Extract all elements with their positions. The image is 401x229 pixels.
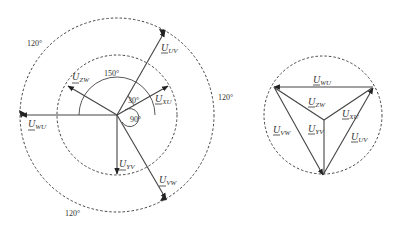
label-u-xu: UXU [155, 93, 173, 106]
svg-text:UVW: UVW [159, 174, 178, 187]
label-r-u-zw: UZW [308, 96, 326, 109]
label-r-u-uv: UUV [351, 131, 368, 144]
angle-label-120-top-left: 120° [27, 39, 42, 48]
svg-text:UWU: UWU [28, 118, 47, 131]
label-u-uv: UUV [161, 42, 178, 55]
angle-label-30: 30° [128, 96, 139, 105]
left-phasor-diagram: UUV UXU UZW UWU UYV UVW 150° 30° 90° 120… [19, 18, 233, 218]
vector-u-vw [117, 115, 166, 199]
right-triangle-diagram: UWU UZW UXU UVW UYV UUV [264, 56, 382, 175]
right-dashed-circle [264, 56, 382, 174]
angle-label-120-right: 120° [218, 93, 233, 102]
svg-text:UZW: UZW [72, 71, 90, 84]
vector-u-uv-side [323, 88, 373, 175]
angle-label-90: 90° [130, 115, 141, 124]
label-u-zw: UZW [72, 71, 90, 84]
label-r-u-yv: UYV [308, 123, 324, 136]
label-r-u-xu: UXU [342, 108, 360, 121]
angle-label-150: 150° [104, 69, 119, 78]
label-u-vw: UVW [159, 174, 178, 187]
vector-u-zw [68, 86, 117, 115]
label-u-wu: UWU [28, 118, 47, 131]
phasor-diagram-canvas: UUV UXU UZW UWU UYV UVW 150° 30° 90° 120… [0, 0, 401, 229]
angle-arc-150 [79, 77, 155, 115]
label-r-u-wu: UWU [313, 74, 332, 87]
angle-label-120-bottom: 120° [65, 209, 80, 218]
svg-text:UYV: UYV [119, 158, 135, 171]
label-u-yv: UYV [119, 158, 135, 171]
label-r-u-vw: UVW [273, 124, 292, 137]
